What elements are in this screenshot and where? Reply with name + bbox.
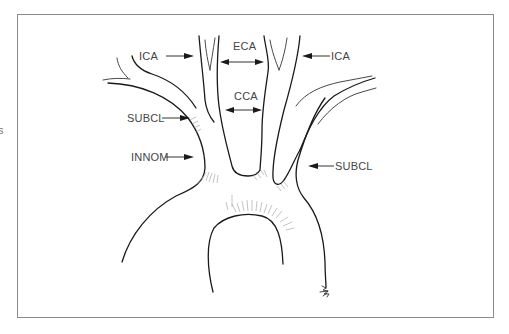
label-cca: CCA: [234, 90, 258, 102]
left-common-carotid-drawing: [252, 36, 300, 191]
left-subclavian-drawing: [296, 76, 376, 297]
label-eca: ECA: [233, 40, 256, 52]
label-innom: INNOM: [131, 151, 169, 163]
label-subcl-right: SUBCL: [335, 160, 373, 172]
label-subcl-left: SUBCL: [127, 112, 165, 124]
label-ica-right: ICA: [331, 50, 350, 62]
aortic-arch-inner-drawing: [208, 195, 294, 292]
annotation-arrows: [162, 53, 334, 169]
diagram-figure: s: [0, 0, 509, 334]
innominate-artery-drawing: [103, 36, 260, 262]
label-ica-left: ICA: [139, 50, 158, 62]
